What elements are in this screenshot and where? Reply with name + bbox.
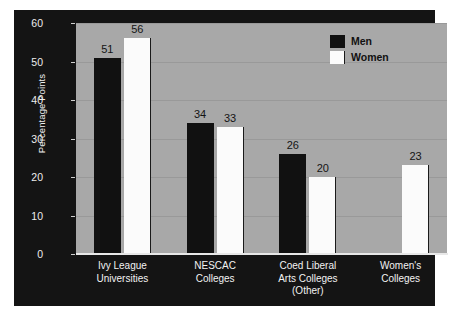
legend-label-women: Women <box>351 52 389 63</box>
legend-swatch-women-icon <box>330 51 345 64</box>
bar-value-label: 26 <box>273 140 312 151</box>
y-tick-label: 20 <box>17 172 43 183</box>
legend-label-men: Men <box>351 36 372 47</box>
y-tick-mark <box>71 254 75 255</box>
chart-figure: Percentage Points 6050403020100 51563433… <box>0 0 449 322</box>
bar-men-group-1 <box>187 123 214 254</box>
bar-women-group-0 <box>124 38 151 254</box>
legend-swatch-men-icon <box>330 35 345 48</box>
y-tick-mark <box>71 62 75 63</box>
y-tick-mark <box>71 177 75 178</box>
bar-men-group-0 <box>94 58 121 254</box>
bar-women-group-3 <box>402 165 429 254</box>
x-category-line: (Other) <box>248 285 368 298</box>
y-tick-mark <box>71 100 75 101</box>
legend-item-men: Men <box>330 34 440 49</box>
plot-area: 51563433262023 Men Women <box>76 23 447 254</box>
chart-legend: Men Women <box>330 34 440 66</box>
y-tick-label: 0 <box>17 249 43 260</box>
y-tick-mark <box>71 139 75 140</box>
bar-value-label: 23 <box>396 151 435 162</box>
x-category-label-3: Women'sColleges <box>341 260 449 285</box>
chart-panel: Percentage Points 6050403020100 51563433… <box>14 10 435 306</box>
bar-women-group-1 <box>217 127 244 254</box>
y-tick-label: 30 <box>17 134 43 145</box>
y-axis-label: Percentage Points <box>36 49 47 179</box>
x-category-line: Colleges <box>341 273 449 286</box>
y-tick-mark <box>71 23 75 24</box>
bar-value-label: 51 <box>88 44 127 55</box>
bar-men-group-2 <box>279 154 306 254</box>
bar-value-label: 33 <box>211 113 250 124</box>
y-tick-label: 40 <box>17 95 43 106</box>
y-tick-mark <box>71 216 75 217</box>
y-tick-label: 10 <box>17 211 43 222</box>
legend-item-women: Women <box>330 50 440 65</box>
x-category-line: Women's <box>341 260 449 273</box>
bar-women-group-2 <box>309 177 336 254</box>
bar-value-label: 56 <box>118 24 157 35</box>
x-axis-baseline <box>76 253 448 255</box>
y-tick-label: 60 <box>17 18 43 29</box>
y-tick-label: 50 <box>17 57 43 68</box>
bar-value-label: 20 <box>303 163 342 174</box>
